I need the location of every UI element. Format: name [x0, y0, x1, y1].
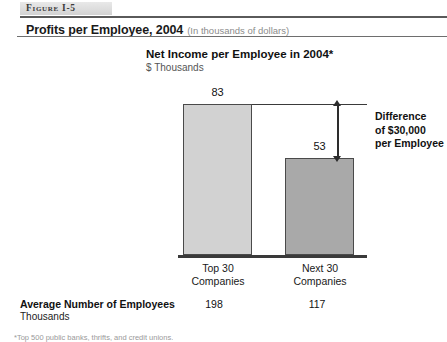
footer-value-top-30: 198	[184, 298, 244, 310]
arrow-head-down-icon	[333, 156, 341, 162]
footer-value-next-30: 117	[287, 298, 347, 310]
bar-top-30-companies	[183, 104, 252, 255]
chart-subtitle: $ Thousands	[146, 62, 204, 73]
annotation-line-2: of $30,000	[375, 124, 447, 138]
figure-title-main: Profits per Employee, 2004	[26, 23, 183, 37]
category-label-top-30-line2: Companies	[178, 275, 258, 288]
difference-arrow-icon	[331, 100, 344, 162]
footer-row-label: Average Number of Employees Thousands	[20, 298, 175, 322]
annotation-line-3: per Employee	[375, 137, 447, 151]
bar-next-30-companies	[285, 158, 354, 255]
annotation-line-1: Difference	[375, 110, 447, 124]
header-rule-bottom	[17, 36, 447, 37]
figure-footnote: *Top 500 public banks, thrifts, and cred…	[14, 333, 173, 342]
chart-baseline	[178, 255, 367, 258]
bar-value-label-top-30: 83	[183, 86, 252, 98]
arrow-head-up-icon	[333, 100, 341, 106]
category-label-top-30-line1: Top 30	[178, 262, 258, 275]
category-label-next-30-line2: Companies	[280, 275, 360, 288]
difference-annotation: Difference of $30,000 per Employee	[375, 110, 447, 151]
figure-tag-label: Figure I-5	[26, 3, 76, 13]
chart-title: Net Income per Employee in 2004*	[146, 48, 333, 60]
footer-row-label-main: Average Number of Employees	[20, 298, 175, 310]
footer-row-label-units: Thousands	[20, 311, 175, 322]
category-label-top-30: Top 30 Companies	[178, 262, 258, 288]
bar-value-label-next-30: 53	[285, 140, 354, 152]
reference-line-top-value	[183, 104, 367, 106]
category-label-next-30: Next 30 Companies	[280, 262, 360, 288]
arrow-shaft	[337, 103, 339, 159]
figure-title-sub: (In thousands of dollars)	[187, 25, 289, 36]
category-label-next-30-line1: Next 30	[280, 262, 360, 275]
header-rule-top	[20, 16, 447, 18]
